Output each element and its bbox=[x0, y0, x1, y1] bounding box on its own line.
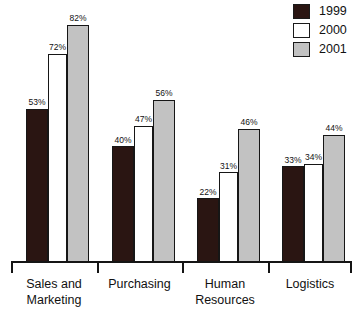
category-label-line-1: Logistics bbox=[268, 276, 352, 292]
x-axis-tick-3 bbox=[268, 261, 270, 273]
bar-rect bbox=[282, 166, 304, 262]
bar-rect bbox=[112, 146, 134, 262]
category-label-line-2: Marketing bbox=[11, 292, 97, 308]
x-axis-tick-2 bbox=[182, 261, 184, 273]
bar-rect bbox=[323, 135, 345, 262]
x-axis-tick-1 bbox=[97, 261, 99, 273]
bar-value-label: 22% bbox=[199, 188, 216, 197]
x-axis-tick-left bbox=[11, 261, 13, 273]
bar-rect bbox=[67, 25, 89, 262]
bar-logistics-2001: 44% bbox=[323, 135, 345, 262]
category-label-line-1: Human bbox=[182, 276, 268, 292]
bar-rect bbox=[153, 100, 175, 262]
bar-sales-and-marketing-2000: 72% bbox=[48, 54, 67, 262]
bar-rect bbox=[197, 198, 219, 262]
bar-value-label: 33% bbox=[284, 156, 301, 165]
bar-rect bbox=[238, 129, 260, 262]
bar-value-label: 53% bbox=[28, 98, 45, 107]
category-label-line-1: Sales and bbox=[11, 276, 97, 292]
bar-purchasing-2000: 47% bbox=[134, 126, 153, 262]
category-label-sales-and-marketing: Sales and Marketing bbox=[11, 276, 97, 308]
bar-rect bbox=[48, 54, 67, 262]
bar-rect bbox=[26, 109, 48, 262]
bar-sales-and-marketing-2001: 82% bbox=[67, 25, 89, 262]
bar-value-label: 40% bbox=[114, 136, 131, 145]
bar-sales-and-marketing-1999: 53% bbox=[26, 109, 48, 262]
bar-purchasing-1999: 40% bbox=[112, 146, 134, 262]
bar-logistics-2000: 34% bbox=[304, 164, 323, 262]
bar-value-label: 46% bbox=[240, 118, 257, 127]
x-axis-tick-right bbox=[350, 261, 352, 273]
category-label-line-2: Resources bbox=[182, 292, 268, 308]
bar-value-label: 82% bbox=[69, 14, 86, 23]
bar-value-label: 44% bbox=[325, 124, 342, 133]
bar-value-label: 56% bbox=[155, 89, 172, 98]
category-label-line-1: Purchasing bbox=[97, 276, 182, 292]
bar-chart: 1999 2000 2001 53%40%22%33%72%47%31%34%8… bbox=[0, 0, 364, 315]
bar-value-label: 47% bbox=[135, 115, 152, 124]
category-label-logistics: Logistics bbox=[268, 276, 352, 292]
bar-purchasing-2001: 56% bbox=[153, 100, 175, 262]
bar-value-label: 72% bbox=[49, 43, 66, 52]
bar-human-resources-2001: 46% bbox=[238, 129, 260, 262]
category-label-human-resources: Human Resources bbox=[182, 276, 268, 308]
bar-human-resources-1999: 22% bbox=[197, 198, 219, 262]
plot-area: 53%40%22%33%72%47%31%34%82%56%46%44% bbox=[0, 0, 364, 272]
bar-rect bbox=[219, 172, 238, 262]
bar-logistics-1999: 33% bbox=[282, 166, 304, 262]
bar-value-label: 31% bbox=[220, 162, 237, 171]
bar-value-label: 34% bbox=[305, 153, 322, 162]
category-label-purchasing: Purchasing bbox=[97, 276, 182, 292]
bar-rect bbox=[134, 126, 153, 262]
bar-rect bbox=[304, 164, 323, 262]
bar-human-resources-2000: 31% bbox=[219, 172, 238, 262]
